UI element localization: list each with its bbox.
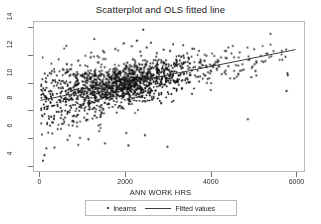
y-tick xyxy=(28,110,33,111)
scatterplot-figure: Scatterplot and OLS fitted line 46810121… xyxy=(0,0,321,224)
x-axis-title: ANN WORK HRS xyxy=(0,188,321,197)
x-tick xyxy=(39,172,40,177)
x-tick xyxy=(296,172,297,177)
legend-item-lnearns: lnearns xyxy=(107,205,137,212)
y-tick xyxy=(28,138,33,139)
legend-label-fitted-values: Fitted values xyxy=(175,205,215,212)
x-tick xyxy=(211,172,212,177)
ols-fitted-line xyxy=(40,50,295,101)
legend-item-fitted-values: Fitted values xyxy=(145,205,215,212)
x-tick xyxy=(125,172,126,177)
y-tick-label: 8 xyxy=(6,96,13,122)
y-tick xyxy=(28,166,33,167)
scatter-marker-icon xyxy=(107,207,110,210)
plot-area xyxy=(33,21,305,172)
y-tick-label: 6 xyxy=(6,124,13,150)
y-tick-label: 10 xyxy=(6,68,13,94)
fitted-line-layer xyxy=(34,22,304,171)
x-tick-label: 0 xyxy=(19,178,59,185)
y-tick xyxy=(28,55,33,56)
y-tick xyxy=(28,83,33,84)
page-title: Scatterplot and OLS fitted line xyxy=(0,4,321,15)
x-tick-label: 6000 xyxy=(276,178,316,185)
line-marker-icon xyxy=(145,208,171,209)
x-tick-label: 2000 xyxy=(105,178,145,185)
y-tick-label: 12 xyxy=(6,40,13,66)
legend-label-lnearns: lnearns xyxy=(113,205,136,212)
y-tick-label: 14 xyxy=(6,12,13,38)
y-tick xyxy=(28,27,33,28)
x-tick-label: 4000 xyxy=(191,178,231,185)
chart-legend: lnearns Fitted values xyxy=(85,200,237,216)
y-tick-label: 4 xyxy=(6,152,13,178)
